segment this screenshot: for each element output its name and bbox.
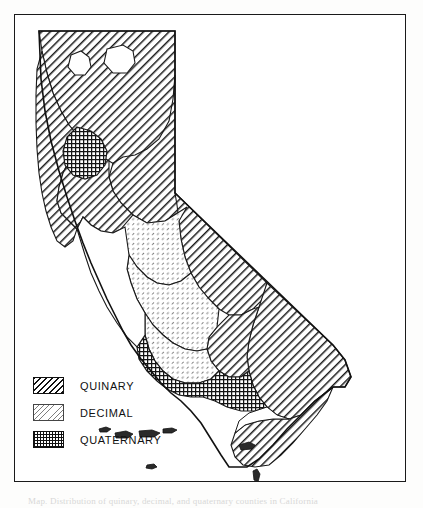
- legend-label-quaternary: Quaternary: [80, 431, 161, 447]
- legend-item-decimal: Decimal: [33, 400, 133, 424]
- figure-plate: Quinary Decimal Quaternary Map. Distribu…: [0, 0, 423, 508]
- map-legend: Quinary Decimal Quaternary: [33, 367, 223, 463]
- legend-swatch-decimal: [33, 404, 64, 421]
- figure-caption: Map. Distribution of quinary, decimal, a…: [28, 496, 398, 508]
- legend-swatch-quinary: [33, 377, 64, 394]
- legend-label-decimal: Decimal: [80, 404, 133, 420]
- map-plate: Quinary Decimal Quaternary: [14, 14, 406, 482]
- legend-item-quinary: Quinary: [33, 373, 134, 397]
- legend-item-quaternary: Quaternary: [33, 427, 161, 451]
- region-white-north-b: [104, 45, 135, 73]
- region-inland-desert: [247, 283, 351, 419]
- legend-swatch-quaternary: [33, 431, 64, 448]
- legend-label-quinary: Quinary: [80, 377, 134, 393]
